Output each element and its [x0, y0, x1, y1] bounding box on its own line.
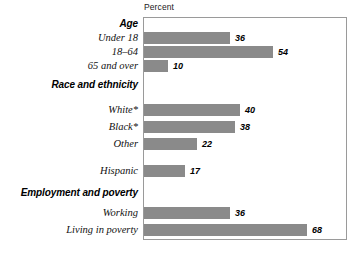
category-label: Working	[0, 206, 138, 220]
category-label: White*	[0, 103, 138, 117]
bar-value-label: 54	[278, 45, 288, 59]
bar	[144, 46, 273, 58]
bar-value-label: 36	[235, 31, 245, 45]
category-label: Hispanic	[0, 164, 138, 178]
bar-value-label: 68	[312, 223, 322, 237]
bar	[144, 60, 168, 72]
bar-value-label: 38	[240, 120, 250, 134]
bar-row: Working36	[0, 206, 361, 220]
bar	[144, 121, 235, 133]
bar-row: Black*38	[0, 120, 361, 134]
bar-value-label: 10	[173, 59, 183, 73]
axis-title-percent: Percent	[144, 2, 174, 12]
group-heading-label: Age	[0, 17, 138, 31]
category-label: Black*	[0, 120, 138, 134]
bar-value-label: 40	[245, 103, 255, 117]
bar	[144, 207, 230, 219]
bar	[144, 224, 307, 236]
bar-value-label: 17	[190, 164, 200, 178]
category-label: Living in poverty	[0, 223, 138, 237]
group-heading-row: Age	[0, 17, 361, 31]
bar-row: Hispanic17	[0, 164, 361, 178]
group-heading-row: Race and ethnicity	[0, 78, 361, 92]
bar-row: White*40	[0, 103, 361, 117]
bar-row: Under 1836	[0, 31, 361, 45]
group-heading-label: Employment and poverty	[0, 186, 138, 200]
category-label: 18–64	[0, 45, 138, 59]
bar-row: Other22	[0, 137, 361, 151]
group-heading-row: Employment and poverty	[0, 186, 361, 200]
bar-value-label: 36	[235, 206, 245, 220]
bar	[144, 165, 185, 177]
group-heading-label: Race and ethnicity	[0, 78, 138, 92]
category-label: Under 18	[0, 31, 138, 45]
chart-container: Percent AgeUnder 183618–645465 and over1…	[0, 0, 361, 255]
bar	[144, 138, 197, 150]
category-label: 65 and over	[0, 59, 138, 73]
bar-value-label: 22	[202, 137, 212, 151]
bar	[144, 104, 240, 116]
bar	[144, 32, 230, 44]
category-label: Other	[0, 137, 138, 151]
bar-row: 65 and over10	[0, 59, 361, 73]
bar-row: Living in poverty68	[0, 223, 361, 237]
bar-row: 18–6454	[0, 45, 361, 59]
